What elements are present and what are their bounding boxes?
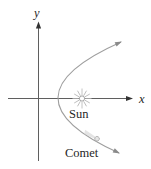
sun-core (79, 96, 84, 101)
trajectory-arrow-lower-icon (113, 148, 121, 155)
y-axis-arrow-icon (36, 22, 41, 29)
comet-trajectory-diagram: y x Sun Comet (0, 0, 151, 169)
x-axis-arrow-icon (126, 96, 133, 101)
x-axis-label: x (138, 92, 145, 106)
trajectory-arrow-upper-icon (115, 39, 123, 46)
y-axis-label: y (32, 6, 40, 20)
comet-icon (83, 130, 101, 142)
comet-label: Comet (65, 146, 99, 160)
sun-icon (73, 89, 92, 109)
sun-label: Sun (69, 107, 89, 121)
diagram-svg: y x Sun Comet (0, 0, 151, 169)
